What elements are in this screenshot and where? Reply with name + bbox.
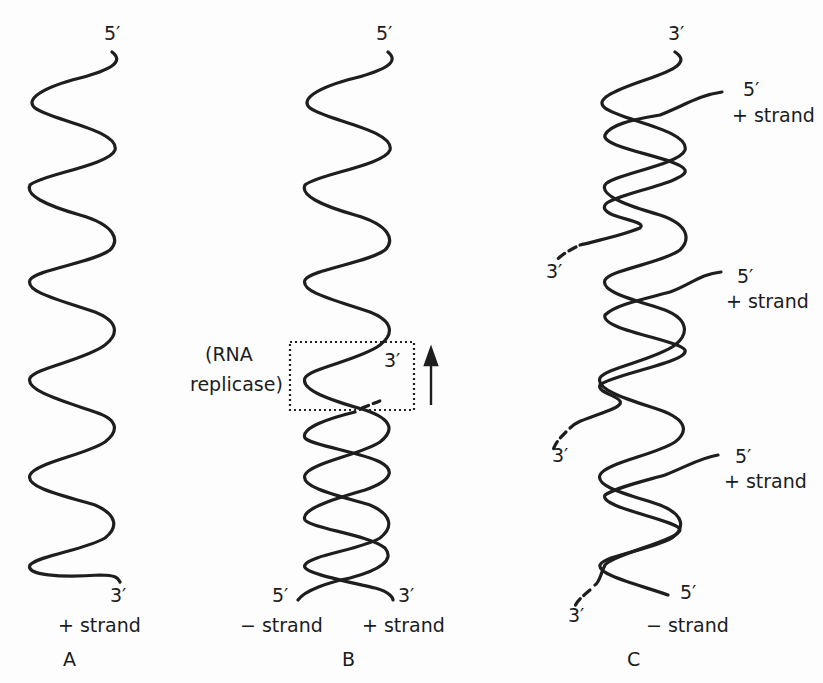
panel-c-strand2-label: + strand — [726, 292, 809, 311]
panel-c-strand2-5-end: 5′ — [737, 267, 753, 286]
panel-c-strand3-5-end: 5′ — [735, 447, 751, 466]
panel-c-strand1-3-end: 3′ — [546, 262, 562, 281]
panel-a-label: A — [63, 650, 76, 669]
replicase-label-line2: replicase) — [190, 375, 283, 394]
figure: 5′ 3′ + strand A 5′ (RNA replicase) 3′ 5… — [0, 0, 823, 683]
panel-b-top-end: 5′ — [376, 24, 392, 43]
replicase-label-line1: (RNA — [205, 345, 253, 364]
panel-a-strand — [29, 52, 120, 582]
panel-b-plus-strand — [304, 52, 393, 600]
arrow-up-icon — [425, 348, 437, 405]
panel-c-bottom-right-end: 5′ — [680, 583, 696, 602]
panel-b-bottom-right-end: 3′ — [398, 586, 414, 605]
panel-c-top-end: 3′ — [668, 24, 684, 43]
panel-b-bottom-left-end: 5′ — [272, 586, 288, 605]
helix-drawing — [0, 0, 823, 683]
panel-c-label: C — [627, 650, 640, 669]
panel-c-plus-strand-3 — [595, 455, 718, 585]
panel-c-strand2-3-end: 3′ — [552, 446, 568, 465]
panel-c-strand3-label: + strand — [724, 472, 807, 491]
panel-c-strand3-3-end: 3′ — [568, 606, 584, 625]
panel-a-top-end: 5′ — [104, 24, 120, 43]
panel-c-strand1-5-end: 5′ — [743, 80, 759, 99]
panel-c-minus-strand-label: − strand — [646, 616, 729, 635]
panel-a-bottom-end: 3′ — [110, 586, 126, 605]
panel-b-minus-strand-dashed-tip — [362, 399, 384, 408]
panel-a-strand-label: + strand — [58, 616, 141, 635]
panel-c-strand1-label: + strand — [732, 106, 815, 125]
panel-b-minus-strand-label: − strand — [240, 616, 323, 635]
panel-b-plus-strand-label: + strand — [362, 616, 445, 635]
panel-b-growing-end: 3′ — [384, 351, 400, 370]
panel-b-label: B — [342, 650, 355, 669]
